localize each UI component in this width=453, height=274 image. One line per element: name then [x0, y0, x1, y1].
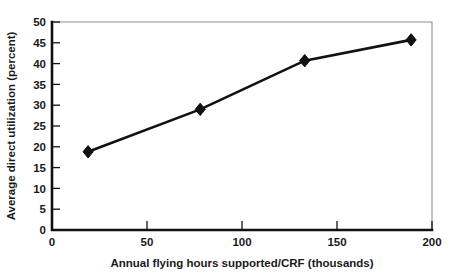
y-tick-label: 25: [33, 120, 46, 132]
y-tick-label: 40: [33, 58, 46, 70]
y-tick-label: 45: [33, 37, 46, 49]
y-tick-label: 35: [33, 79, 46, 91]
x-tick-label: 0: [49, 236, 55, 248]
y-tick-label: 10: [33, 183, 46, 195]
x-axis-title: Annual flying hours supported/CRF (thous…: [110, 257, 373, 269]
x-tick-label: 150: [327, 236, 346, 248]
x-tick-label: 200: [422, 236, 441, 248]
y-tick-label: 20: [33, 141, 46, 153]
y-axis-title: Average direct utilization (percent): [5, 31, 17, 220]
chart-figure: 0 5 10 15 20 25 30 35 40 45 50 0 50 100 …: [0, 0, 453, 274]
y-tick-label: 0: [40, 224, 46, 236]
chart-background: [0, 0, 453, 274]
x-tick-label: 50: [141, 236, 154, 248]
y-tick-label: 30: [33, 99, 46, 111]
y-tick-label: 5: [40, 203, 47, 215]
x-tick-label: 100: [232, 236, 251, 248]
y-tick-label: 15: [33, 162, 46, 174]
line-chart: 0 5 10 15 20 25 30 35 40 45 50 0 50 100 …: [0, 0, 453, 274]
y-tick-label: 50: [33, 16, 46, 28]
